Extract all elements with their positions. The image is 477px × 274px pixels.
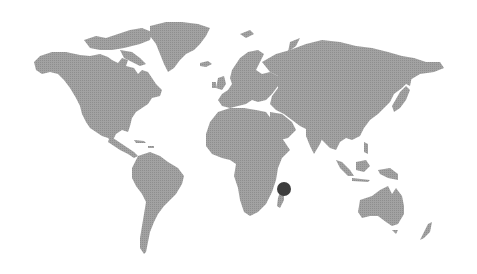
continent-north-america (34, 52, 162, 142)
continent-australia (358, 186, 404, 226)
central-america (108, 136, 138, 158)
caribbean-islands (134, 140, 154, 148)
svalbard (240, 30, 254, 38)
tasmania (392, 230, 398, 234)
british-isles (212, 76, 226, 90)
canadian-arctic-islands (84, 28, 152, 50)
location-marker[interactable] (277, 182, 291, 196)
continent-south-america (132, 152, 184, 254)
philippines (364, 142, 368, 154)
world-map (0, 0, 477, 274)
iceland (200, 61, 212, 67)
borneo (356, 160, 370, 172)
new-guinea (378, 168, 398, 180)
sumatra (336, 160, 354, 176)
java (352, 178, 370, 182)
world-map-svg (0, 0, 477, 274)
new-zealand (420, 222, 432, 240)
